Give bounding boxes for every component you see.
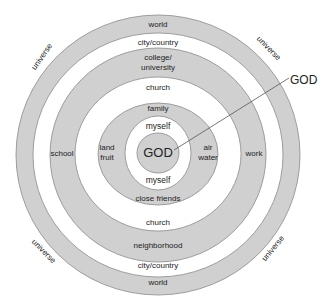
label-world-top: world xyxy=(147,20,167,29)
label-god-callout: GOD xyxy=(290,73,318,87)
label-church-bottom: church xyxy=(146,218,170,227)
label-myself-top: myself xyxy=(146,121,171,131)
label-work: work xyxy=(245,149,264,158)
label-city-country-top: city/country xyxy=(138,38,178,47)
label-family: family xyxy=(148,104,169,113)
label-air: air xyxy=(204,143,213,152)
label-college-line2: university xyxy=(141,63,175,72)
label-land: land xyxy=(99,143,114,152)
label-church-top: church xyxy=(146,83,170,92)
label-close-friends: close friends xyxy=(136,194,181,203)
label-school: school xyxy=(50,149,73,158)
label-city-country-bottom: city/country xyxy=(138,261,178,270)
label-water: water xyxy=(197,153,218,162)
concentric-diagram: world world city/country city/country co… xyxy=(0,0,333,304)
label-college-line1: college/ xyxy=(144,53,172,62)
label-fruit: fruit xyxy=(100,153,114,162)
label-myself-bottom: myself xyxy=(146,175,171,185)
label-world-bottom: world xyxy=(147,278,167,287)
label-god-center: GOD xyxy=(143,145,173,160)
label-neighborhood: neighborhood xyxy=(134,241,183,250)
